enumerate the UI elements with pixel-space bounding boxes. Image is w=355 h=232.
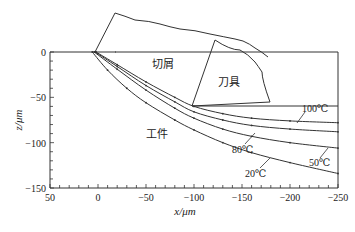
x-tick-label: −100 [184,192,205,203]
data-marker [116,66,118,68]
data-marker [337,173,339,175]
data-marker [91,51,93,53]
data-marker [337,131,339,133]
data-marker [145,89,147,91]
data-marker [107,69,109,71]
label-20c: 20℃ [245,168,266,179]
data-marker [193,129,195,131]
curve-50c [94,52,338,148]
x-tick-label: 50 [45,192,55,203]
data-marker [251,125,253,127]
chip-outline [95,13,268,57]
y-tick-label: −150 [25,183,46,194]
tool-label: 刀具 [218,76,240,88]
axes [50,52,338,188]
data-marker [174,101,176,103]
data-marker [289,162,291,164]
x-tick-label: −50 [138,192,154,203]
data-marker [222,128,224,130]
data-marker [116,64,118,66]
data-marker [116,68,118,70]
data-marker [251,117,253,119]
data-marker [337,147,339,149]
data-marker [289,128,291,130]
label-100c: 100℃ [302,103,328,114]
label-50c: 50℃ [309,157,330,168]
data-marker [222,113,224,115]
ticks [50,52,338,188]
x-tick-label: −250 [328,192,349,203]
data-marker [193,106,195,108]
data-marker [145,85,147,87]
data-marker [193,111,195,113]
data-marker [93,51,95,53]
data-marker [222,142,224,144]
x-tick-label: 0 [96,192,101,203]
data-marker [174,96,176,98]
x-axis-label: x/μm [173,205,195,217]
data-marker [193,117,195,119]
data-marker [145,102,147,104]
data-marker [126,87,128,89]
x-tick-label: −200 [280,192,301,203]
y-tick-label: −50 [30,92,46,103]
data-marker [222,119,224,121]
workpiece-label: 工件 [146,128,168,140]
y-axis-label: z/μm [12,110,24,132]
chip-label: 切屑 [152,58,174,70]
data-marker [337,122,339,124]
tick-labels: 500−50−100−150−200−2500−50−100−150 [25,47,348,203]
data-marker [174,107,176,109]
data-marker [289,142,291,144]
y-tick-label: 0 [41,47,46,58]
data-marker [145,81,147,83]
x-tick-label: −150 [232,192,253,203]
y-tick-label: −100 [25,138,46,149]
data-marker [174,119,176,121]
chart: 500−50−100−150−200−2500−50−100−150 切屑 刀具… [0,0,355,232]
data-marker [289,120,291,122]
label-80c: 80℃ [232,144,253,155]
